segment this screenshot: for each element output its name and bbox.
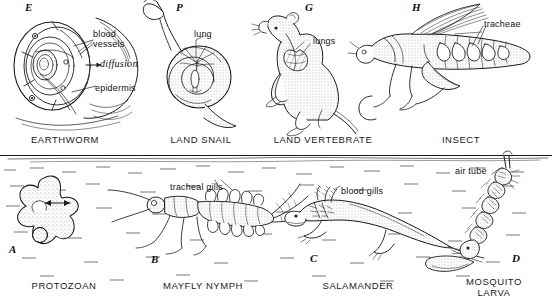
panel-letter-H: H [412,1,421,13]
protozoan-drawing [18,176,79,244]
label-diffusion: diffusion [100,59,138,69]
caption-protozoan: PROTOZOAN [0,281,128,292]
land-snail-drawing [143,0,236,128]
caption-salamander: SALAMANDER [288,281,428,292]
caption-land-snail: LAND SNAIL [138,135,264,146]
panel-letter-G: G [305,1,313,13]
label-blood-gills: blood gills [341,186,383,196]
caption-insect: INSECT [398,135,524,146]
panel-letter-C: C [310,252,317,264]
caption-mayfly-nymph: MAYFLY NYMPH [118,281,288,292]
caption-earthworm: EARTHWORM [0,135,130,146]
panel-letter-P: P [176,1,183,13]
panel-letter-B: B [151,253,158,265]
panel-letter-D: D [512,252,520,264]
label-tracheal-gills: tracheal gills [170,182,223,192]
panel-letter-A: A [9,243,16,255]
water-surface-line [0,156,552,163]
label-lungs: lungs [313,36,336,46]
figure-artwork [0,0,552,299]
figure-canvas: E P G H A B C D blood vessels diffusion … [0,0,552,299]
label-epidermis: epidermis [95,83,136,93]
salamander-drawing [285,185,484,262]
label-blood-vessels: blood vessels [93,29,124,49]
label-air-tube: air tube [455,166,487,176]
caption-land-vertebrate: LAND VERTEBRATE [256,135,390,146]
panel-letter-E: E [25,1,32,13]
label-tracheae: tracheae [484,19,521,29]
land-vertebrate-drawing [252,13,358,136]
label-lung: lung [194,29,212,39]
caption-mosquito-larva: MOSQUITO LARVA [436,277,552,298]
